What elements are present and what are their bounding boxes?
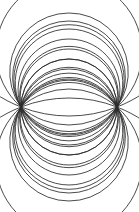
coaxial-circle-figure: Coaxial circle pencil [0, 0, 139, 212]
